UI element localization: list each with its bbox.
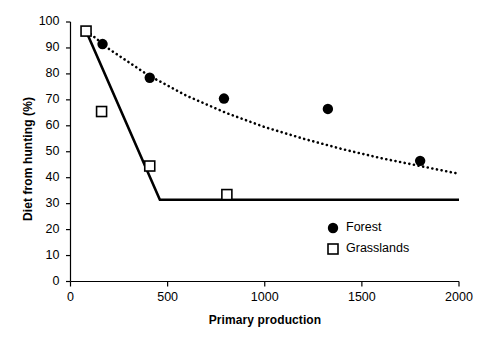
data-markers xyxy=(81,26,425,199)
data-point-forest xyxy=(145,73,155,83)
legend-markers xyxy=(328,223,338,254)
x-tick-label: 1000 xyxy=(235,290,295,304)
legend-label-forest: Forest xyxy=(346,220,381,234)
y-tick-label: 100 xyxy=(30,14,60,28)
data-point-grasslands xyxy=(81,26,91,36)
x-axis-title: Primary production xyxy=(70,313,460,327)
y-tick-label: 30 xyxy=(30,196,60,210)
y-tick-label: 50 xyxy=(30,144,60,158)
y-tick-label: 0 xyxy=(30,274,60,288)
y-tick-label: 60 xyxy=(30,118,60,132)
y-tick-label: 40 xyxy=(30,170,60,184)
data-point-forest xyxy=(323,104,333,114)
trend-lines xyxy=(86,31,459,200)
chart-figure: Diet from hunting (%) Primary production… xyxy=(0,0,488,345)
legend-marker-grasslands xyxy=(328,244,338,254)
x-tick-label: 1500 xyxy=(332,290,392,304)
y-tick-label: 80 xyxy=(30,66,60,80)
x-tick-label: 500 xyxy=(138,290,198,304)
y-axis-ticks xyxy=(66,22,71,282)
y-tick-label: 70 xyxy=(30,92,60,106)
legend-label-grasslands: Grasslands xyxy=(346,241,409,255)
data-point-forest xyxy=(415,156,425,166)
data-point-grasslands xyxy=(222,190,232,200)
trend-line-forest xyxy=(87,31,459,174)
x-tick-label: 2000 xyxy=(429,290,488,304)
x-axis-ticks xyxy=(71,282,460,287)
data-point-grasslands xyxy=(97,107,107,117)
legend-marker-forest xyxy=(328,223,338,233)
y-tick-label: 10 xyxy=(30,248,60,262)
data-point-forest xyxy=(97,39,107,49)
data-point-grasslands xyxy=(145,161,155,171)
data-point-forest xyxy=(219,93,229,103)
x-tick-label: 0 xyxy=(41,290,101,304)
y-tick-label: 20 xyxy=(30,222,60,236)
y-tick-label: 90 xyxy=(30,40,60,54)
trend-line-grasslands xyxy=(86,31,459,200)
